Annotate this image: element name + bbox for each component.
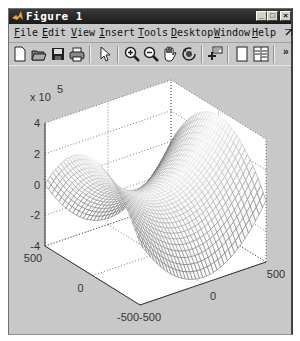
z-tick-label: 0 — [34, 179, 40, 191]
mesh-plot-axes[interactable]: -4-2024-5000500-5000500x 105 — [0, 0, 300, 341]
x-tick-label: 500 — [267, 268, 285, 280]
y-tick-label: 0 — [77, 282, 83, 294]
z-tick-label: 2 — [34, 148, 40, 160]
x-tick-label: -500 — [139, 311, 161, 323]
y-tick-label: 500 — [24, 252, 42, 264]
x-tick-label: 0 — [210, 290, 216, 302]
z-tick-label: -2 — [30, 209, 40, 221]
z-tick-label: 4 — [34, 117, 40, 129]
z-exponent-power: 5 — [57, 83, 63, 95]
z-exponent-label: x 10 — [30, 91, 51, 103]
z-tick-label: -4 — [30, 240, 40, 252]
y-tick-label: -500 — [117, 311, 139, 323]
